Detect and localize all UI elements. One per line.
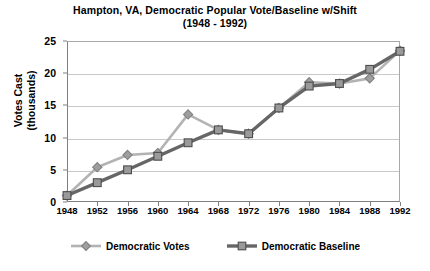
x-axis-tick-label: 1948 [56, 205, 77, 216]
x-axis-tick-label: 1972 [238, 205, 259, 216]
data-point-marker [305, 82, 313, 90]
x-axis-tick-label: 1992 [389, 205, 410, 216]
x-axis-tick [158, 202, 159, 206]
legend-label: Democratic Votes [106, 241, 190, 252]
x-axis-tick [188, 202, 189, 206]
x-axis-tick-label: 1960 [147, 205, 168, 216]
x-axis-tick [249, 202, 250, 206]
legend-label: Democratic Baseline [262, 241, 360, 252]
series-line [67, 51, 400, 195]
legend-diamond-icon [70, 240, 102, 252]
data-point-marker [123, 150, 132, 159]
x-axis-tick [339, 202, 340, 206]
x-axis-tick-label: 1988 [359, 205, 380, 216]
x-axis-tick-label: 1980 [299, 205, 320, 216]
x-axis-tick-label: 1976 [268, 205, 289, 216]
data-point-marker [93, 179, 101, 187]
x-axis-tick [370, 202, 371, 206]
x-axis-tick [400, 202, 401, 206]
data-point-marker [214, 126, 222, 134]
x-axis-tick [279, 202, 280, 206]
x-axis-tick [309, 202, 310, 206]
data-point-marker [275, 104, 283, 112]
chart-root: Hampton, VA, Democratic Popular Vote/Bas… [0, 0, 430, 271]
data-point-marker [184, 139, 192, 147]
chart-legend: Democratic VotesDemocratic Baseline [0, 238, 430, 254]
data-point-marker [124, 166, 132, 174]
legend-square-icon [226, 240, 258, 252]
x-axis-tick [218, 202, 219, 206]
legend-item: Democratic Votes [70, 240, 190, 252]
x-axis-tick-label: 1964 [178, 205, 199, 216]
legend-item: Democratic Baseline [226, 240, 360, 252]
data-point-marker [154, 152, 162, 160]
data-point-marker [245, 130, 253, 138]
x-axis-tick-label: 1968 [208, 205, 229, 216]
x-axis-labels: 1948195219561960196419681972197619801984… [0, 205, 430, 219]
x-axis-tick-label: 1984 [329, 205, 350, 216]
x-axis-tick [128, 202, 129, 206]
data-point-marker [366, 65, 374, 73]
data-point-marker [336, 80, 344, 88]
data-point-marker [63, 192, 71, 200]
series-layer [0, 0, 430, 271]
x-axis-tick-label: 1956 [117, 205, 138, 216]
x-axis-tick [97, 202, 98, 206]
data-point-marker [396, 47, 404, 55]
x-axis-tick-label: 1952 [87, 205, 108, 216]
